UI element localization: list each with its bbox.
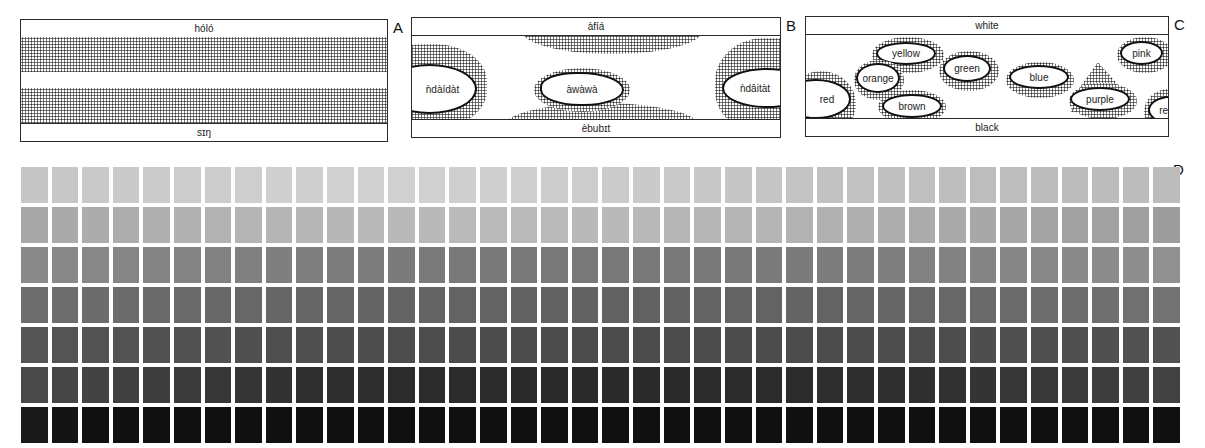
color-chip — [52, 407, 79, 443]
color-chip — [52, 207, 79, 243]
color-chip — [480, 167, 507, 203]
color-chip — [113, 287, 140, 323]
color-chip — [52, 247, 79, 283]
color-chip — [939, 167, 966, 203]
color-chip — [296, 327, 323, 363]
color-chip — [633, 407, 660, 443]
color-chip — [633, 247, 660, 283]
color-chip — [388, 367, 415, 403]
panel-c-diagram: white red yellow orange brown green blue… — [805, 16, 1169, 137]
color-chip — [633, 327, 660, 363]
color-chip — [756, 327, 783, 363]
color-chip — [1153, 327, 1180, 363]
color-chip — [878, 367, 905, 403]
color-chip — [756, 287, 783, 323]
color-chip — [388, 407, 415, 443]
color-chip — [878, 287, 905, 323]
color-chip — [82, 167, 109, 203]
panel-b-letter: B — [786, 17, 796, 34]
color-chip — [113, 167, 140, 203]
color-chip — [52, 327, 79, 363]
color-chip — [909, 247, 936, 283]
color-chip — [327, 247, 354, 283]
color-chip — [939, 407, 966, 443]
color-chip — [1092, 287, 1119, 323]
color-chip — [358, 327, 385, 363]
color-chip — [449, 407, 476, 443]
color-chip — [1000, 367, 1027, 403]
color-chip — [327, 207, 354, 243]
color-chip — [21, 287, 48, 323]
color-chip — [817, 247, 844, 283]
color-chip — [480, 247, 507, 283]
panel-c-top-label: white — [806, 17, 1168, 35]
color-chip — [419, 367, 446, 403]
color-chip — [602, 167, 629, 203]
color-chip — [419, 327, 446, 363]
color-chip — [52, 367, 79, 403]
color-chip — [725, 367, 752, 403]
color-chip — [449, 247, 476, 283]
panel-c-region-purple: purple — [1070, 87, 1130, 111]
color-chip — [1153, 167, 1180, 203]
color-chip — [511, 247, 538, 283]
color-chip — [1123, 167, 1150, 203]
panel-b-region-right-label: ǹdâitàt — [740, 83, 781, 94]
color-chip — [878, 407, 905, 443]
color-chip — [113, 207, 140, 243]
color-chip — [847, 167, 874, 203]
color-chip — [878, 327, 905, 363]
color-chip — [511, 367, 538, 403]
color-chip — [541, 367, 568, 403]
panel-a-bottom-label: sɪŋ — [21, 123, 387, 141]
color-chip — [388, 247, 415, 283]
color-chip — [419, 247, 446, 283]
color-chip — [909, 327, 936, 363]
color-chip — [511, 327, 538, 363]
color-chip — [664, 287, 691, 323]
color-chip — [388, 167, 415, 203]
panel-c-brown-label: brown — [898, 101, 925, 112]
color-chip — [541, 407, 568, 443]
color-chip — [878, 247, 905, 283]
color-chip — [909, 167, 936, 203]
color-chip — [602, 367, 629, 403]
color-chip — [939, 207, 966, 243]
panel-b-region-center: àwàwà — [540, 72, 624, 106]
color-chip — [1031, 247, 1058, 283]
color-chip — [205, 367, 232, 403]
color-chip — [1031, 207, 1058, 243]
panel-c-pink-label: pink — [1132, 48, 1150, 59]
color-chip — [572, 367, 599, 403]
color-chip — [21, 327, 48, 363]
color-chip — [572, 287, 599, 323]
panel-a-lower-stipple-band — [21, 88, 387, 125]
color-chip — [449, 287, 476, 323]
color-chip — [235, 207, 262, 243]
color-chip — [939, 287, 966, 323]
color-chip — [21, 167, 48, 203]
color-chip — [1062, 327, 1089, 363]
color-chip — [602, 247, 629, 283]
panel-c-region-blue: blue — [1009, 65, 1069, 89]
color-chip — [143, 247, 170, 283]
color-chip — [541, 287, 568, 323]
color-chip — [633, 367, 660, 403]
color-chip — [21, 207, 48, 243]
color-chip — [205, 167, 232, 203]
color-chip — [1123, 367, 1150, 403]
color-chip — [847, 207, 874, 243]
color-chip — [327, 367, 354, 403]
color-chip — [358, 247, 385, 283]
color-chip — [725, 167, 752, 203]
color-chip — [786, 167, 813, 203]
color-chip — [909, 207, 936, 243]
color-chip — [143, 327, 170, 363]
color-chip — [419, 207, 446, 243]
color-chip — [541, 207, 568, 243]
color-chip — [970, 207, 997, 243]
color-chip — [541, 327, 568, 363]
color-chip — [480, 367, 507, 403]
color-chip — [694, 327, 721, 363]
color-chip — [1092, 167, 1119, 203]
